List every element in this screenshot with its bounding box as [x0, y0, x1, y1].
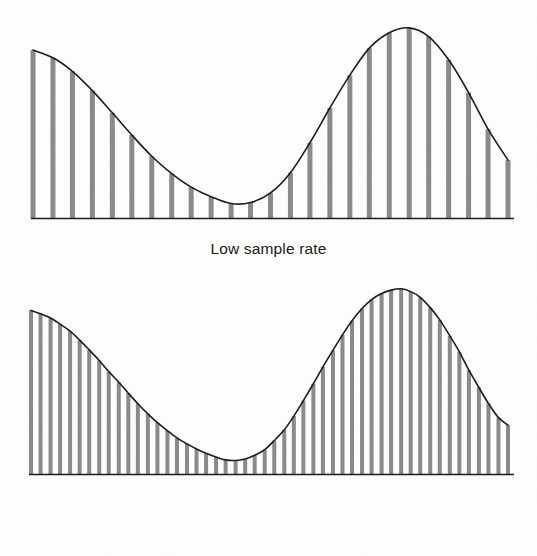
- high-sample-rate-svg: [0, 262, 537, 488]
- sample-bar: [418, 297, 422, 474]
- sample-bar: [340, 335, 344, 474]
- sampling-rate-figure: Low sample rate High sample rate: [0, 0, 537, 556]
- sample-bar: [347, 75, 352, 218]
- sample-bar: [129, 135, 134, 218]
- waveform-curve: [31, 289, 508, 461]
- sample-bar: [506, 425, 510, 474]
- sample-bar: [268, 193, 273, 218]
- sample-bar: [175, 438, 179, 474]
- sample-bar: [288, 173, 293, 218]
- sample-bar: [496, 418, 500, 474]
- sample-bar: [70, 71, 75, 218]
- sample-bar: [165, 431, 169, 474]
- panel-high-sample-rate: High sample rate: [0, 262, 537, 556]
- sample-bar: [428, 308, 432, 474]
- sample-bar: [117, 382, 121, 474]
- sample-bar: [457, 352, 461, 474]
- sample-bar: [243, 459, 247, 474]
- sample-bar: [90, 91, 95, 218]
- sample-bar: [426, 37, 431, 218]
- sample-bar: [253, 455, 257, 474]
- sample-bar: [506, 160, 511, 218]
- chart-high-sample-rate: [0, 262, 537, 488]
- sample-bar: [126, 393, 130, 474]
- sample-bar: [97, 360, 101, 474]
- sample-bar: [380, 294, 384, 474]
- sample-bar: [446, 60, 451, 218]
- sample-bar: [78, 340, 82, 474]
- sample-bar: [350, 321, 354, 474]
- sample-bar: [155, 423, 159, 474]
- sample-bar: [204, 453, 208, 474]
- sample-bar: [229, 204, 234, 218]
- sample-bar: [389, 290, 393, 474]
- sample-bar: [107, 372, 111, 474]
- sample-bar: [360, 309, 364, 474]
- panel-low-sample-rate: Low sample rate: [0, 0, 537, 270]
- sample-bar: [327, 108, 332, 218]
- sample-bar: [292, 416, 296, 474]
- sample-bar: [169, 174, 174, 218]
- sample-bar: [29, 310, 33, 474]
- sample-bar: [407, 28, 412, 218]
- sample-bar: [321, 367, 325, 474]
- sample-bars: [31, 28, 511, 218]
- sample-bar: [307, 143, 312, 218]
- sample-bar: [234, 460, 238, 474]
- sample-bar: [263, 450, 267, 474]
- sample-bar: [387, 33, 392, 218]
- sample-bar: [486, 129, 491, 218]
- sample-bar: [399, 289, 403, 474]
- sample-bar: [301, 401, 305, 474]
- sample-bar: [189, 187, 194, 218]
- waveform-curve: [33, 28, 508, 204]
- sample-bar: [224, 460, 228, 474]
- sample-bar: [272, 441, 276, 474]
- sample-bar: [467, 370, 471, 474]
- sample-bar: [195, 449, 199, 474]
- sample-bar: [214, 457, 218, 474]
- sample-bar: [466, 93, 471, 218]
- sample-bar: [31, 50, 36, 218]
- sample-bar: [409, 292, 413, 474]
- sample-bar: [282, 430, 286, 474]
- sample-bar: [68, 331, 72, 474]
- sample-bar: [370, 300, 374, 474]
- sample-bar: [311, 384, 315, 474]
- sample-bar: [110, 113, 115, 218]
- sample-bar: [185, 444, 189, 474]
- sample-bar: [248, 203, 253, 218]
- sample-bar: [50, 58, 55, 218]
- sample-bar: [136, 404, 140, 474]
- sample-bar: [367, 48, 372, 218]
- sample-bar: [331, 350, 335, 474]
- sample-bar: [39, 314, 43, 474]
- sample-bar: [486, 404, 490, 475]
- sample-bar: [477, 388, 481, 474]
- sample-bar: [149, 156, 154, 218]
- caption-low-sample-rate: Low sample rate: [0, 240, 537, 258]
- sample-bar: [49, 318, 53, 474]
- chart-low-sample-rate: [0, 0, 537, 232]
- sample-bar: [146, 414, 150, 474]
- sample-bar: [448, 336, 452, 474]
- sample-bar: [87, 350, 91, 474]
- low-sample-rate-svg: [0, 0, 537, 232]
- sample-bar: [58, 324, 62, 474]
- sample-bar: [438, 320, 442, 474]
- sample-bar: [209, 197, 214, 218]
